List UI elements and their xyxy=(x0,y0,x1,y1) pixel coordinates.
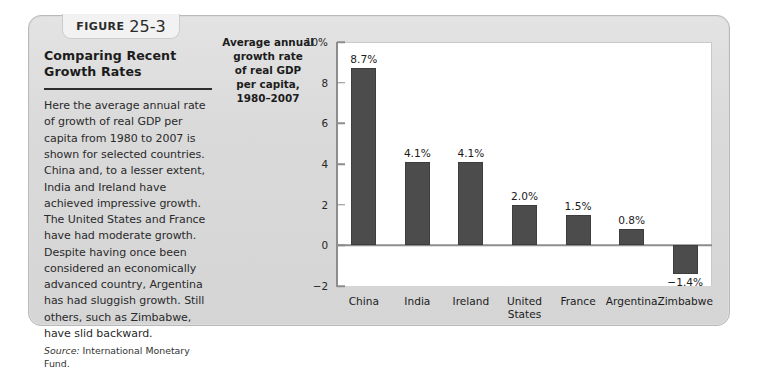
y-axis-title-line: growth rate xyxy=(222,49,314,63)
figure-title: Comparing Recent Growth Rates xyxy=(44,48,216,80)
bar-value-label: 0.8% xyxy=(604,214,660,226)
y-axis-tick-label: 6 xyxy=(284,117,328,129)
y-axis-tick-mark xyxy=(337,82,345,84)
bar-value-label: 2.0% xyxy=(497,190,553,202)
y-axis-tick-mark xyxy=(337,41,345,43)
x-axis-label-line: Zimbabwe xyxy=(654,295,716,308)
x-axis-category-label: Zimbabwe xyxy=(654,295,716,308)
bar-value-label: 4.1% xyxy=(443,147,499,159)
bar xyxy=(458,162,483,245)
bar xyxy=(351,68,376,245)
y-axis-title-line: 1980–2007 xyxy=(222,91,314,105)
x-axis-label-line: States xyxy=(494,308,556,321)
figure-description: Here the average annual rate of growth o… xyxy=(44,98,216,342)
bar xyxy=(512,205,537,246)
bar-value-label: 8.7% xyxy=(336,53,392,65)
y-axis-tick-mark xyxy=(337,285,345,287)
bar xyxy=(405,162,430,245)
bar xyxy=(673,245,698,273)
y-axis-tick-label: 0 xyxy=(284,239,328,251)
y-axis-tick-label: 8 xyxy=(284,77,328,89)
figure-source: Source: International Monetary Fund. xyxy=(44,345,216,370)
y-axis-tick-label: 4 xyxy=(284,158,328,170)
bar-value-label: 4.1% xyxy=(389,147,445,159)
bar xyxy=(566,215,591,246)
bar-value-label: 1.5% xyxy=(550,200,606,212)
bar-value-label: −1.4% xyxy=(657,276,713,288)
y-axis-tick-label: 2 xyxy=(284,199,328,211)
title-divider xyxy=(44,88,212,90)
y-axis-tick-mark xyxy=(337,163,345,165)
figure-number: 25-3 xyxy=(129,17,165,36)
source-label: Source: xyxy=(44,345,80,356)
bar-chart: Average annualgrowth rateof real GDPper … xyxy=(222,33,716,323)
y-axis-tick-label: 10% xyxy=(284,36,328,48)
y-axis-title-line: of real GDP xyxy=(222,63,314,77)
caption-column: Comparing Recent Growth Rates Here the a… xyxy=(44,48,216,371)
figure-number-tab: Figure 25-3 xyxy=(62,14,180,39)
y-axis-tick-label: −2 xyxy=(284,280,328,292)
bar xyxy=(619,229,644,245)
y-axis-tick-mark xyxy=(337,123,345,125)
figure-label: Figure xyxy=(76,20,124,33)
y-axis-tick-mark xyxy=(337,204,345,206)
plot-area xyxy=(337,42,712,286)
